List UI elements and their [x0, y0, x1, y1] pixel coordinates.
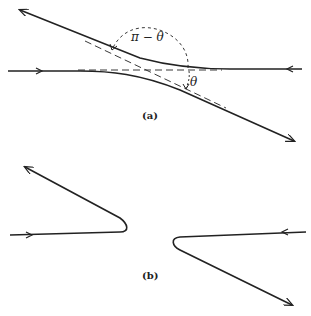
caption-a: (a) — [142, 110, 158, 121]
caption-b: (b) — [142, 270, 158, 281]
trajectory-lower — [8, 71, 294, 141]
diagram-canvas — [0, 0, 311, 316]
panel-b — [10, 167, 306, 305]
asymptote-diagonal — [85, 41, 226, 108]
label-theta: θ — [190, 75, 197, 89]
trajectory-right-reflected — [173, 232, 306, 305]
trajectory-left-reflected — [10, 167, 127, 235]
theta-arrow-icon — [183, 84, 189, 89]
scattering-diagram: π − θ θ (a) (b) — [0, 0, 311, 316]
label-pi-minus-theta: π − θ — [131, 30, 164, 44]
